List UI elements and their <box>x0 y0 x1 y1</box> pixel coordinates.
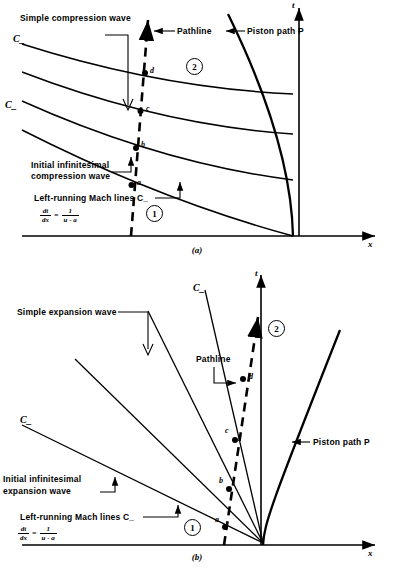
equation-equals: = <box>32 529 37 538</box>
label-pathline: Pathline <box>177 26 212 36</box>
point-label-c: c <box>146 104 150 113</box>
label-c-minus-top: C_ <box>193 282 205 293</box>
piston-path-curve <box>228 14 293 236</box>
label-initial-wave-line1: Initial infinitesimal <box>31 160 109 170</box>
label-initial-wave-line1: Initial infinitesimal <box>3 474 81 484</box>
panel-a-caption: (a) <box>0 245 394 255</box>
leader-simple-expansion-wave <box>118 312 153 355</box>
label-pathline: Pathline <box>196 354 231 364</box>
mach-lines-c-minus <box>22 290 263 543</box>
pathline-dashed <box>131 20 148 236</box>
label-initial-wave-line2: expansion wave <box>3 486 71 496</box>
label-initial-wave-line2: compression wave <box>31 171 110 181</box>
equation-lhs-denominator: dx <box>40 216 51 224</box>
point-label-a: a <box>137 178 141 187</box>
point-label-b: b <box>141 140 145 149</box>
point-label-c: c <box>225 426 229 435</box>
region-1-badge: 1 <box>184 519 201 536</box>
label-c-minus-bottom: C_ <box>5 99 17 110</box>
label-c-minus-top: C_ <box>13 33 25 44</box>
equation-lhs-numerator: dt <box>19 525 28 533</box>
mach-line-slope-equation: dt dx = 1 u - a <box>18 525 57 542</box>
equation-lhs-numerator: dt <box>41 207 50 215</box>
pathline-dashed <box>224 317 258 545</box>
point-label-b: b <box>219 476 223 485</box>
point-label-d: d <box>249 372 253 381</box>
region-2-badge: 2 <box>186 58 203 75</box>
label-mach-lines: Left-running Mach lines C_ <box>34 193 148 203</box>
mach-line-slope-equation: dt dx = 1 u - a <box>40 207 79 224</box>
equation-lhs-denominator: dx <box>18 534 29 542</box>
equation-equals: = <box>54 211 59 220</box>
label-simple-expansion-wave: Simple expansion wave <box>17 307 117 317</box>
label-piston-path: Piston path P <box>313 437 370 447</box>
leader-mach-lines <box>143 505 178 517</box>
equation-rhs-denominator: u - a <box>40 534 57 542</box>
axis-label-t: t <box>292 0 295 10</box>
panel-expansion-wave: t x Simple expansion wave Pathline Pisto… <box>0 262 394 569</box>
point-label-d: d <box>150 66 154 75</box>
panel-b-caption: (b) <box>0 552 394 562</box>
label-piston-path: Piston path P <box>247 26 304 36</box>
region-2-badge: 2 <box>268 320 285 337</box>
label-mach-lines: Left-running Mach lines C_ <box>20 512 134 522</box>
label-simple-compression-wave: Simple compression wave <box>20 13 131 23</box>
label-c-minus-bottom: C_ <box>20 414 32 425</box>
equation-rhs-denominator: u - a <box>62 216 79 224</box>
axis-label-t: t <box>255 268 258 278</box>
leader-initial-wave <box>112 157 131 172</box>
panel-a-graphics <box>0 0 394 270</box>
leader-initial-wave <box>100 477 115 492</box>
point-label-a: a <box>215 515 219 524</box>
panel-compression-wave: t x Simple compression wave Pathline Pis… <box>0 0 394 270</box>
equation-rhs-numerator: 1 <box>44 525 52 533</box>
equation-rhs-numerator: 1 <box>66 207 74 215</box>
region-1-badge: 1 <box>146 205 163 222</box>
